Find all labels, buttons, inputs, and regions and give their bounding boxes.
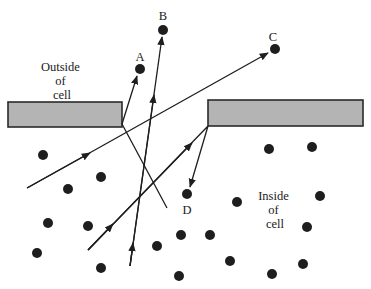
molecule — [174, 271, 184, 281]
inside-label: Inside of cell — [258, 189, 292, 231]
membrane-left — [8, 102, 122, 127]
molecule — [176, 230, 186, 240]
membrane-right — [208, 100, 363, 126]
label-C: C — [269, 30, 277, 44]
molecule — [63, 184, 73, 194]
molecule — [225, 256, 235, 266]
membrane-transport-diagram: Outside of cell Inside of cell A B C D — [0, 0, 371, 289]
molecule — [83, 221, 93, 231]
label-A: A — [135, 50, 144, 64]
molecule-A — [135, 64, 145, 74]
path-to-A — [122, 76, 167, 208]
outside-label: Outside of cell — [41, 60, 83, 102]
molecule — [267, 269, 277, 279]
molecule-D — [182, 189, 192, 199]
molecule — [232, 197, 242, 207]
molecule — [43, 218, 53, 228]
molecule — [264, 144, 274, 154]
molecule — [32, 248, 42, 258]
molecule-C — [270, 44, 280, 54]
path-to-C-arrow-mid — [27, 153, 90, 188]
molecule — [96, 172, 106, 182]
molecule — [205, 230, 215, 240]
molecule-B — [158, 25, 168, 35]
molecule — [152, 241, 162, 251]
molecule — [302, 222, 312, 232]
molecule — [96, 263, 106, 273]
molecule — [298, 259, 308, 269]
molecule — [307, 142, 317, 152]
label-D: D — [182, 203, 191, 217]
molecule — [38, 150, 48, 160]
molecule — [315, 191, 325, 201]
label-B: B — [159, 9, 167, 23]
path-to-B-arrow-mid — [130, 95, 154, 266]
